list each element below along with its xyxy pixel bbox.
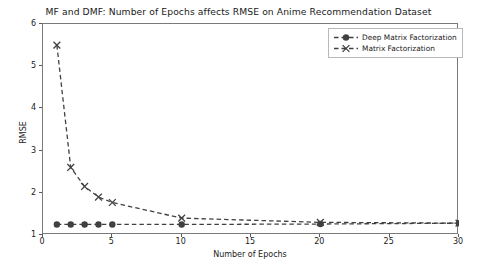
y-tick-label: 5 (14, 61, 36, 70)
chart-figure: MF and DMF: Number of Epochs affects RMS… (0, 0, 477, 273)
x-tick-mark (458, 234, 459, 237)
x-tick-label: 25 (377, 237, 401, 246)
x-tick-mark (250, 234, 251, 237)
data-point (109, 221, 115, 227)
data-point (95, 221, 101, 227)
x-tick-label: 20 (307, 237, 331, 246)
x-tick-label: 15 (238, 237, 262, 246)
x-tick-label: 0 (30, 237, 54, 246)
data-point (178, 221, 184, 227)
data-point (95, 194, 102, 201)
x-tick-mark (181, 234, 182, 237)
circle-marker-icon (333, 32, 359, 43)
y-tick-label: 6 (14, 19, 36, 28)
x-tick-mark (42, 234, 43, 237)
y-tick-label: 2 (14, 187, 36, 196)
y-tick-mark (39, 107, 42, 108)
chart-title: MF and DMF: Number of Epochs affects RMS… (0, 6, 477, 17)
x-axis-label: Number of Epochs (42, 250, 458, 259)
x-tick-mark (389, 234, 390, 237)
series-line-1 (57, 45, 459, 223)
legend-item-1[interactable]: Matrix Factorization (333, 43, 457, 54)
x-tick-label: 5 (99, 237, 123, 246)
data-point (54, 221, 60, 227)
y-tick-mark (39, 23, 42, 24)
legend-item-0[interactable]: Deep Matrix Factorization (333, 32, 457, 43)
x-tick-label: 10 (169, 237, 193, 246)
y-tick-mark (39, 150, 42, 151)
legend-label: Deep Matrix Factorization (362, 33, 457, 42)
x-tick-mark (111, 234, 112, 237)
x-tick-mark (319, 234, 320, 237)
chart-legend: Deep Matrix FactorizationMatrix Factoriz… (328, 28, 463, 58)
x-tick-label: 30 (446, 237, 470, 246)
x-marker-icon (333, 43, 359, 54)
data-point (81, 183, 88, 190)
y-tick-mark (39, 192, 42, 193)
legend-label: Matrix Factorization (362, 44, 435, 53)
y-tick-mark (39, 65, 42, 66)
y-axis-label: RMSE (19, 103, 28, 163)
data-point (68, 221, 74, 227)
data-point (81, 221, 87, 227)
